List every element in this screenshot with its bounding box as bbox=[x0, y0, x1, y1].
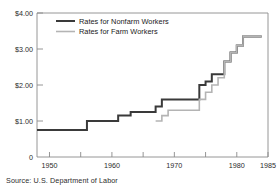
y-tick-label-3: $3.00 bbox=[15, 45, 33, 54]
legend-label-0: Rates for Nonfarm Workers bbox=[79, 17, 169, 26]
x-tick-label-0: 1950 bbox=[41, 161, 57, 170]
chart-container: 0$1.00$2.00$3.00$4.001950196019701980198… bbox=[0, 0, 277, 189]
y-tick-label-2: $2.00 bbox=[15, 81, 33, 90]
x-tick-label-1: 1960 bbox=[104, 161, 120, 170]
x-tick-label-3: 1980 bbox=[229, 161, 245, 170]
y-tick-label-0: 0 bbox=[29, 153, 33, 162]
source-note: Source: U.S. Department of Labor bbox=[6, 176, 118, 185]
y-tick-label-1: $1.00 bbox=[15, 117, 33, 126]
legend-label-1: Rates for Farm Workers bbox=[79, 27, 158, 36]
x-tick-label-4: 1985 bbox=[260, 161, 276, 170]
x-tick-label-2: 1970 bbox=[166, 161, 182, 170]
minimum-wage-step-chart: 0$1.00$2.00$3.00$4.001950196019701980198… bbox=[0, 0, 277, 189]
y-tick-label-4: $4.00 bbox=[15, 9, 33, 18]
